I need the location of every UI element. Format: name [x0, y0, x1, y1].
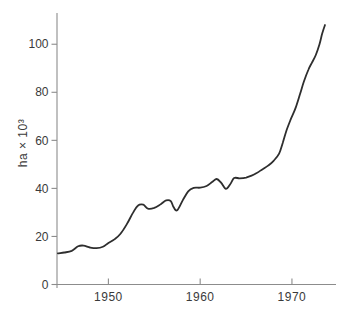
y-axis-title: ha × 10³ — [16, 119, 30, 167]
y-tick-label-5: 100 — [28, 37, 48, 51]
data-curve-area-curve — [58, 25, 325, 253]
y-tick-label-4: 80 — [35, 85, 49, 99]
x-tick-label-2: 1970 — [278, 290, 307, 304]
y-tick-label-1: 20 — [35, 230, 49, 244]
y-tick-label-3: 60 — [35, 134, 49, 148]
x-tick-label-1: 1960 — [186, 290, 215, 304]
y-tick-label-0: 0 — [42, 278, 49, 292]
y-tick-label-2: 40 — [35, 182, 49, 196]
x-tick-label-0: 1950 — [94, 290, 123, 304]
chart-canvas: 020406080100195019601970 — [0, 0, 356, 320]
line-chart-figure: 020406080100195019601970 ha × 10³ — [0, 0, 356, 320]
